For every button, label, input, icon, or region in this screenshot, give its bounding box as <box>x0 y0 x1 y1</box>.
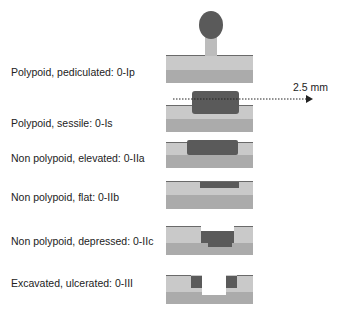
elevated-lesion <box>187 140 238 155</box>
flat-lesion <box>200 182 239 188</box>
polyp-head <box>199 11 223 39</box>
diagram-0-IIc <box>166 226 253 255</box>
lesion-diagrams <box>0 0 341 311</box>
diagram-0-Is <box>166 91 313 132</box>
diagram-0-III <box>166 274 253 304</box>
diagram-0-IIa <box>166 140 253 168</box>
ulcer-crater <box>202 274 226 295</box>
diagram-0-IIb <box>166 181 253 209</box>
stalk <box>205 37 217 56</box>
scale-arrow-head <box>306 95 313 103</box>
sessile-lesion <box>192 91 239 114</box>
ulcer-edge-left <box>191 276 202 288</box>
depressed-lesion <box>201 231 234 243</box>
ulcer-edge-right <box>226 276 237 288</box>
diagram-0-Ip <box>166 11 253 83</box>
